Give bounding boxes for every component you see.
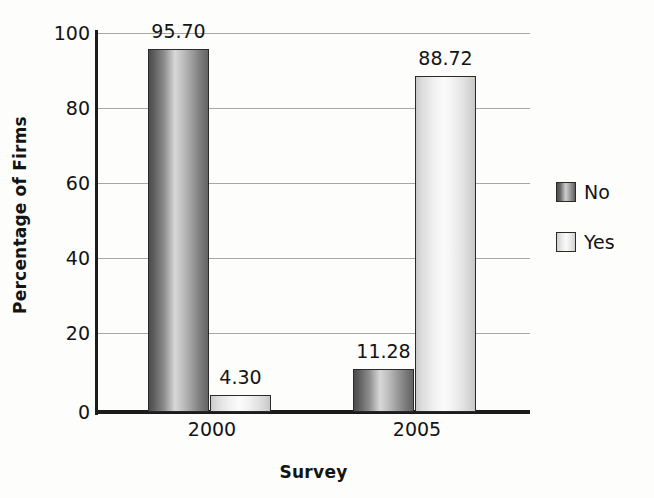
y-tick-label-60: 60 bbox=[44, 174, 90, 193]
bar-2000-yes[interactable] bbox=[210, 395, 271, 412]
legend-entry-no[interactable]: No bbox=[556, 182, 648, 202]
y-tick-label-80: 80 bbox=[44, 99, 90, 118]
bar-2000-no[interactable] bbox=[148, 49, 209, 412]
bar-value-2005-yes: 88.72 bbox=[405, 49, 486, 68]
legend-swatch-no-icon bbox=[556, 182, 576, 202]
y-tick-label-40: 40 bbox=[44, 249, 90, 268]
y-tick-label-20: 20 bbox=[44, 324, 90, 343]
legend-swatch-yes-icon bbox=[556, 232, 576, 252]
bar-value-2005-no: 11.28 bbox=[343, 342, 424, 361]
y-tick-label-100: 100 bbox=[44, 24, 90, 43]
y-tick-label-0: 0 bbox=[44, 403, 90, 422]
chart-legend: No Yes bbox=[556, 182, 648, 282]
legend-entry-yes[interactable]: Yes bbox=[556, 232, 648, 252]
bar-2005-yes[interactable] bbox=[415, 76, 476, 412]
legend-label-yes: Yes bbox=[584, 233, 615, 252]
bar-value-2000-yes: 4.30 bbox=[200, 368, 281, 387]
bar-2005-no[interactable] bbox=[353, 369, 414, 412]
y-axis-title: Percentage of Firms bbox=[2, 0, 38, 430]
bar-chart-figure: Percentage of Firms 100 80 60 40 20 0 95… bbox=[0, 0, 654, 498]
y-axis-title-text: Percentage of Firms bbox=[10, 116, 30, 314]
x-axis-title: Survey bbox=[97, 462, 530, 482]
y-axis-tick-labels: 100 80 60 40 20 0 bbox=[38, 0, 90, 430]
bar-value-2000-no: 95.70 bbox=[138, 22, 219, 41]
x-category-label-2000: 2000 bbox=[157, 420, 267, 439]
x-category-label-2005: 2005 bbox=[362, 420, 472, 439]
legend-label-no: No bbox=[584, 183, 610, 202]
bars-layer: 95.70 4.30 11.28 88.72 bbox=[97, 0, 530, 412]
